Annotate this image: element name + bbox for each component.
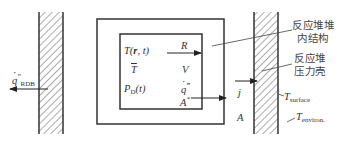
internal-structure-annotation: 反应堆堆 内结构	[292, 19, 334, 45]
t-environ-sub: environ.	[302, 116, 325, 124]
q-vol-primes: ‴	[186, 82, 189, 91]
q-subscript: RDB	[21, 80, 35, 88]
annotation-line-1: 反应堆堆	[292, 19, 334, 32]
annotation-line-1: 反应堆	[294, 52, 326, 65]
left-wall	[39, 12, 63, 134]
area-a-label: A	[237, 113, 243, 124]
rdb-heat-flux-label: q″RDB	[12, 74, 35, 88]
t-main: T(	[124, 45, 133, 56]
environment-temperature-label: Tenviron.	[296, 112, 325, 124]
flux-j-label: j	[238, 88, 241, 99]
volumetric-heat-label: q‴	[181, 83, 190, 96]
q-vol-symbol: q	[181, 84, 186, 95]
volume-label: V	[182, 65, 188, 76]
t-surface-sub: surface	[290, 96, 310, 104]
pressure-vessel-annotation: 反应堆 压力壳	[294, 52, 326, 78]
a-superscript: *	[186, 95, 190, 103]
mean-temperature-label: T	[131, 65, 137, 76]
q-symbol: q	[12, 75, 17, 86]
temperature-field-label: T(r, t)	[124, 46, 149, 57]
area-star-label: A*	[180, 96, 190, 109]
surface-temperature-label: Tsurface	[284, 92, 310, 104]
t-environ-leader	[287, 118, 295, 122]
radius-label: R	[181, 41, 187, 52]
t-rest: , t)	[137, 45, 149, 56]
decay-power-label: PD(t)	[124, 84, 145, 96]
annotation-line-2: 内结构	[292, 32, 334, 45]
p-rest: (t)	[135, 83, 145, 94]
annotation-line-2: 压力壳	[294, 65, 326, 78]
pressure-vessel-wall	[254, 12, 278, 134]
